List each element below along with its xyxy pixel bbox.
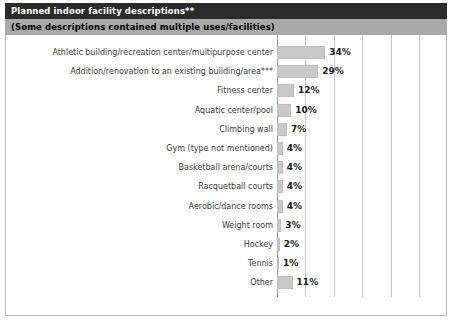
bar-value-label: 7% — [291, 120, 306, 139]
bar-category-label: Fitness center — [217, 81, 273, 100]
bar-value-label: 29% — [322, 62, 344, 81]
bar — [277, 257, 279, 270]
bar-category-label: Basketball arena/courts — [179, 158, 274, 177]
bar — [277, 238, 280, 251]
chart-figure: Planned indoor facility descriptions** (… — [0, 0, 452, 321]
bar-category-label: Tennis — [248, 254, 273, 273]
bar-category-label: Athletic building/recreation center/mult… — [52, 43, 273, 62]
bar-row: Aerobic/dance rooms4% — [0, 197, 452, 216]
bar-row: Other11% — [0, 273, 452, 292]
bar-row: Basketball arena/courts4% — [0, 158, 452, 177]
bar-value-label: 4% — [287, 139, 302, 158]
bar-value-label: 4% — [287, 197, 302, 216]
bar-value-label: 2% — [284, 235, 299, 254]
bar-row: Hockey2% — [0, 235, 452, 254]
bar-row: Aquatic center/pool10% — [0, 101, 452, 120]
bar — [277, 180, 283, 193]
bar — [277, 104, 291, 117]
bar-value-label: 4% — [287, 158, 302, 177]
bar-category-label: Other — [250, 273, 273, 292]
bar — [277, 276, 293, 289]
bar-row: Gym (type not mentioned)4% — [0, 139, 452, 158]
bar-value-label: 4% — [287, 177, 302, 196]
bar — [277, 46, 325, 59]
bar — [277, 161, 283, 174]
bar-category-label: Aerobic/dance rooms — [189, 197, 273, 216]
bar-value-label: 11% — [297, 273, 319, 292]
bar-category-label: Addition/renovation to an existing build… — [70, 62, 273, 81]
bar — [277, 84, 294, 97]
bar-row: Addition/renovation to an existing build… — [0, 62, 452, 81]
bar-row: Athletic building/recreation center/mult… — [0, 43, 452, 62]
bar-value-label: 34% — [329, 43, 351, 62]
chart-plot-area: Athletic building/recreation center/mult… — [0, 35, 452, 321]
bar-category-label: Aquatic center/pool — [195, 101, 273, 120]
bar-row: Fitness center12% — [0, 81, 452, 100]
bar — [277, 219, 281, 232]
bar-value-label: 12% — [298, 81, 320, 100]
bar — [277, 123, 287, 136]
bar-row: Racquetball courts4% — [0, 177, 452, 196]
bar — [277, 65, 318, 78]
chart-title-bar: Planned indoor facility descriptions** — [5, 3, 447, 19]
page-title: Planned indoor facility descriptions** — [5, 6, 194, 16]
bar-category-label: Hockey — [244, 235, 273, 254]
bar-category-label: Gym (type not mentioned) — [166, 139, 273, 158]
bar — [277, 142, 283, 155]
bar-value-label: 3% — [285, 216, 300, 235]
bar-value-label: 1% — [283, 254, 298, 273]
chart-subtitle: (Some descriptions contained multiple us… — [5, 22, 275, 32]
bar-category-label: Climbing wall — [219, 120, 273, 139]
chart-subtitle-bar: (Some descriptions contained multiple us… — [5, 19, 447, 35]
bar — [277, 200, 283, 213]
bar-row: Tennis1% — [0, 254, 452, 273]
bar-category-label: Weight room — [222, 216, 273, 235]
bar-value-label: 10% — [295, 101, 317, 120]
bar-category-label: Racquetball courts — [198, 177, 273, 196]
bar-row: Weight room3% — [0, 216, 452, 235]
bar-row: Climbing wall7% — [0, 120, 452, 139]
